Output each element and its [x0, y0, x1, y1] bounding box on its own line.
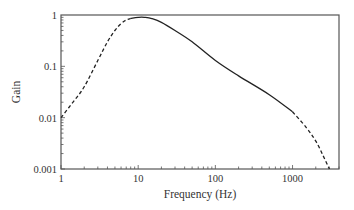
- y-tick-label: 1: [52, 10, 57, 21]
- x-axis-title: Frequency (Hz): [164, 188, 237, 201]
- gain-curve-dashed: [61, 18, 131, 117]
- gain-frequency-chart: 1101001000 0.0010.010.11 Frequency (Hz) …: [0, 0, 354, 210]
- y-tick-label: 0.1: [44, 61, 57, 72]
- axis-ticks: [61, 17, 339, 169]
- gain-curves: [61, 17, 329, 169]
- x-tick-label: 10: [133, 173, 144, 184]
- y-axis-title: Gain: [10, 81, 22, 104]
- y-tick-label: 0.01: [39, 113, 57, 124]
- x-tick-labels: 1101001000: [58, 173, 303, 184]
- plot-border: [61, 15, 339, 169]
- plot-frame: [61, 15, 339, 169]
- y-tick-label: 0.001: [33, 164, 57, 175]
- x-tick-label: 1: [58, 173, 63, 184]
- gain-curve-dashed: [293, 112, 330, 169]
- x-tick-label: 100: [207, 173, 223, 184]
- y-tick-labels: 0.0010.010.11: [33, 10, 57, 175]
- gain-curve-solid: [131, 17, 293, 112]
- x-tick-label: 1000: [282, 173, 303, 184]
